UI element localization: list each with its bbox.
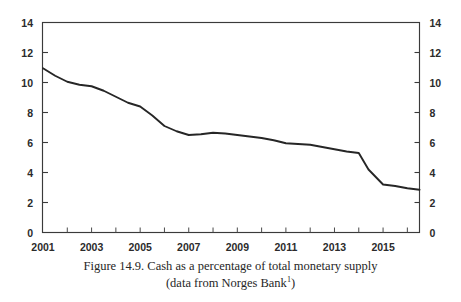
y-axis-right-tick-label: 10	[430, 77, 442, 89]
x-axis-tick-label: 2013	[323, 241, 347, 253]
x-axis-labels: 20012003200520072009201120132015	[31, 241, 395, 253]
y-axis-left-tick-label: 12	[21, 47, 33, 59]
y-axis-left-tick-label: 14	[21, 17, 33, 29]
y-axis-right-labels: 02468101214	[430, 17, 442, 239]
line-chart: 02468101214 02468101214 2001200320052007…	[0, 0, 461, 260]
x-axis-tick-label: 2011	[275, 241, 298, 253]
data-line-cash-percentage	[43, 68, 420, 190]
y-axis-left-labels: 02468101214	[21, 17, 33, 239]
caption-line-primary: Figure 14.9. Cash as a percentage of tot…	[0, 258, 461, 275]
y-axis-left-ticks	[43, 53, 48, 203]
y-axis-right-tick-label: 0	[430, 227, 436, 239]
figure-caption: Figure 14.9. Cash as a percentage of tot…	[0, 258, 461, 291]
x-axis-ticks	[67, 228, 407, 233]
y-axis-left-tick-label: 6	[27, 137, 33, 149]
y-axis-left-tick-label: 0	[27, 227, 33, 239]
y-axis-left-tick-label: 10	[21, 77, 33, 89]
y-axis-right-tick-label: 12	[430, 47, 442, 59]
x-axis-tick-label: 2009	[226, 241, 250, 253]
caption-line-source: (data from Norges Bank1)	[0, 275, 461, 292]
y-axis-right-tick-label: 2	[430, 197, 436, 209]
y-axis-right-tick-label: 6	[430, 137, 436, 149]
x-axis-tick-label: 2007	[177, 241, 201, 253]
y-axis-right-tick-label: 14	[430, 17, 442, 29]
figure-container: 02468101214 02468101214 2001200320052007…	[0, 0, 461, 302]
data-series-group	[43, 68, 420, 190]
x-axis-tick-label: 2015	[371, 241, 395, 253]
y-axis-left-tick-label: 4	[27, 167, 33, 179]
y-axis-right-ticks	[415, 53, 420, 203]
x-axis-tick-label: 2005	[128, 241, 152, 253]
plot-frame	[43, 23, 420, 233]
caption-source-prefix: (data from Norges Bank	[166, 276, 287, 290]
x-axis-tick-label: 2003	[80, 241, 104, 253]
y-axis-left-tick-label: 8	[27, 107, 33, 119]
caption-source-suffix: )	[291, 276, 295, 290]
x-axis-tick-label: 2001	[31, 241, 55, 253]
y-axis-right-tick-label: 4	[430, 167, 436, 179]
y-axis-right-tick-label: 8	[430, 107, 436, 119]
plot-frame-group	[43, 23, 420, 233]
y-axis-left-tick-label: 2	[27, 197, 33, 209]
